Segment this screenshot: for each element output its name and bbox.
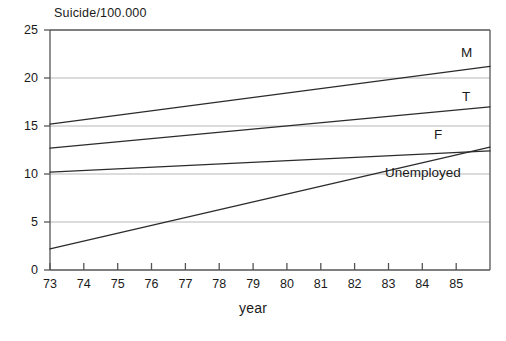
x-tick-label-80: 80 bbox=[275, 277, 299, 291]
series-line-m[interactable] bbox=[50, 66, 490, 124]
series-label-m: M bbox=[461, 45, 472, 60]
y-tick-label-0: 0 bbox=[8, 263, 38, 277]
x-tick-label-74: 74 bbox=[72, 277, 96, 291]
y-axis-title: Suicide/100.000 bbox=[54, 6, 147, 20]
x-tick-label-84: 84 bbox=[410, 277, 434, 291]
x-tick-label-83: 83 bbox=[377, 277, 401, 291]
series-label-unemployed: Unemployed bbox=[385, 165, 461, 180]
series-label-f: F bbox=[434, 127, 442, 142]
y-tick-label-10: 10 bbox=[8, 167, 38, 181]
x-tick-label-76: 76 bbox=[140, 277, 164, 291]
gridlines bbox=[50, 78, 490, 222]
y-tick-label-25: 25 bbox=[8, 23, 38, 37]
series-label-t: T bbox=[462, 89, 470, 104]
y-axis-ticks bbox=[44, 30, 50, 270]
x-tick-label-75: 75 bbox=[106, 277, 130, 291]
x-axis-ticks bbox=[50, 263, 456, 270]
y-tick-label-15: 15 bbox=[8, 119, 38, 133]
x-tick-label-77: 77 bbox=[173, 277, 197, 291]
x-axis-title: year bbox=[0, 300, 506, 316]
x-tick-label-79: 79 bbox=[241, 277, 265, 291]
x-tick-label-81: 81 bbox=[309, 277, 333, 291]
x-tick-label-85: 85 bbox=[444, 277, 468, 291]
x-tick-label-73: 73 bbox=[38, 277, 62, 291]
series-line-t[interactable] bbox=[50, 107, 490, 148]
x-tick-label-82: 82 bbox=[343, 277, 367, 291]
series-line-unemployed[interactable] bbox=[50, 147, 490, 249]
chart-figure: Suicide/100.000 year 25 20 15 10 5 0 73 … bbox=[0, 0, 506, 341]
y-tick-label-5: 5 bbox=[8, 215, 38, 229]
x-tick-label-78: 78 bbox=[207, 277, 231, 291]
y-tick-label-20: 20 bbox=[8, 71, 38, 85]
